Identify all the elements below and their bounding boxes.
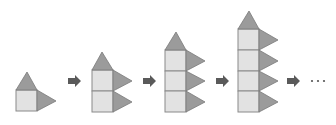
side-triangle xyxy=(259,91,278,112)
square xyxy=(238,29,259,50)
figure-1 xyxy=(16,72,56,111)
arrow-right-icon xyxy=(143,75,156,87)
square xyxy=(92,70,113,91)
top-triangle xyxy=(165,32,186,50)
square xyxy=(238,50,259,71)
square xyxy=(16,90,37,111)
side-triangle xyxy=(113,91,132,112)
top-triangle xyxy=(238,11,259,29)
side-triangle xyxy=(113,70,132,91)
square xyxy=(92,91,113,112)
arrow-right-icon xyxy=(68,75,81,87)
square xyxy=(238,91,259,112)
figure-3 xyxy=(165,32,205,112)
square xyxy=(238,71,259,91)
side-triangle xyxy=(259,29,278,50)
side-triangle xyxy=(186,50,205,71)
square xyxy=(165,50,186,71)
figure-2 xyxy=(92,52,132,112)
ellipsis-icon xyxy=(311,80,325,82)
arrow-right-icon xyxy=(216,75,229,87)
square xyxy=(165,71,186,91)
side-triangle xyxy=(186,91,205,112)
square xyxy=(165,91,186,112)
top-triangle xyxy=(16,72,37,90)
figure-4 xyxy=(238,11,278,112)
side-triangle xyxy=(37,90,56,111)
pattern-diagram xyxy=(0,0,336,125)
arrow-right-icon xyxy=(287,75,300,87)
top-triangle xyxy=(92,52,113,70)
side-triangle xyxy=(259,71,278,91)
side-triangle xyxy=(259,50,278,71)
side-triangle xyxy=(186,71,205,91)
